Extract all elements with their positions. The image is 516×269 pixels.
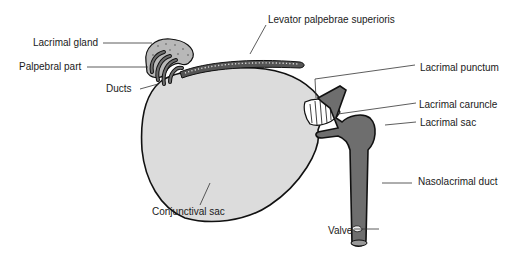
label-ducts: Ducts — [106, 83, 132, 95]
label-nasolacrimal-duct: Nasolacrimal duct — [418, 176, 497, 188]
leader-levator — [250, 25, 266, 54]
label-lacrimal-caruncle: Lacrimal caruncle — [419, 99, 497, 111]
duct-opening — [351, 240, 367, 246]
label-palpebral-part: Palpebral part — [19, 61, 81, 73]
label-levator: Levator palpebrae superioris — [268, 14, 395, 26]
label-lacrimal-punctum: Lacrimal punctum — [420, 62, 499, 74]
leader-lacrimal-sac — [385, 122, 416, 125]
label-lacrimal-gland: Lacrimal gland — [33, 37, 98, 49]
label-lacrimal-sac: Lacrimal sac — [420, 117, 476, 129]
label-valve: Valve — [328, 225, 352, 237]
conjunctival-sac-shape — [142, 68, 322, 222]
label-conjunctival-sac: Conjunctival sac — [152, 206, 225, 218]
leader-lacrimal-caruncle — [338, 103, 416, 114]
